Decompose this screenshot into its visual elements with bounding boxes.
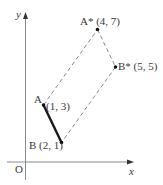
- y-axis: [23, 12, 28, 180]
- x-axis-label: x: [129, 166, 134, 177]
- origin-label: O: [15, 164, 23, 175]
- point-a-label: A: [34, 94, 42, 105]
- dashed-segment-a-astar: [44, 30, 98, 106]
- point-a-star: [96, 28, 100, 32]
- point-b-label: B (2, 1): [29, 140, 63, 151]
- point-b-star: [114, 65, 118, 69]
- y-axis-label: y: [16, 9, 21, 20]
- x-axis-arrow-icon: [127, 160, 134, 165]
- x-axis: [7, 160, 134, 165]
- y-axis-arrow-icon: [23, 12, 28, 19]
- dashed-segment-astar-bstar: [98, 30, 116, 68]
- point-a-star-label: A* (4, 7): [80, 16, 120, 27]
- coordinate-diagram: y x O A (1, 3) B (2, 1) A* (4, 7) B* (5,…: [0, 0, 163, 185]
- point-b-star-label: B* (5, 5): [118, 61, 157, 72]
- diagram-canvas: [0, 0, 163, 185]
- point-a-coords-label: (1, 3): [46, 101, 70, 112]
- point-a: [42, 103, 46, 107]
